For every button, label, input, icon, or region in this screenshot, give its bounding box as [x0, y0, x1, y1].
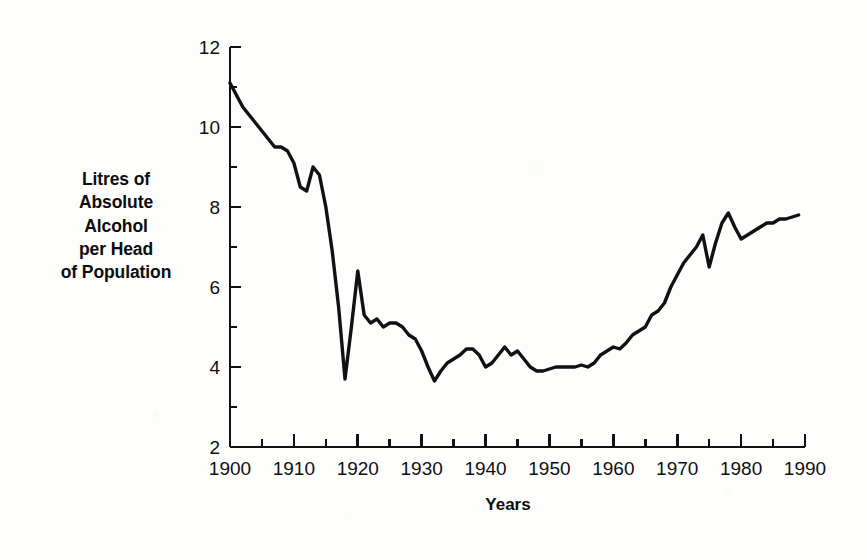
x-tick-label: 1960	[592, 458, 634, 479]
y-tick-label: 10	[199, 117, 220, 138]
y-tick-label: 2	[209, 437, 220, 458]
y-tick-label: 6	[209, 277, 220, 298]
y-axis-title-line-3: Alcohol	[28, 215, 204, 238]
x-tick-label: 1900	[209, 458, 251, 479]
y-axis-title-line-5: of Population	[28, 261, 204, 284]
x-tick-label: 1910	[273, 458, 315, 479]
y-axis-title-line-4: per Head	[28, 238, 204, 261]
x-tick-label: 1950	[528, 458, 570, 479]
x-axis-title: Years	[418, 495, 598, 515]
x-tick-label: 1990	[784, 458, 826, 479]
x-tick-label: 1970	[656, 458, 698, 479]
axes-group	[230, 47, 805, 447]
y-axis-title: Litres of Absolute Alcohol per Head of P…	[28, 168, 204, 284]
x-tick-label: 1920	[337, 458, 379, 479]
y-tick-label: 8	[209, 197, 220, 218]
y-tick-label: 4	[209, 357, 220, 378]
chart-figure: Litres of Absolute Alcohol per Head of P…	[0, 0, 867, 560]
x-tick-label: 1940	[464, 458, 506, 479]
tick-labels-group: 2468101219001910192019301940195019601970…	[199, 37, 826, 479]
y-tick-label: 12	[199, 37, 220, 58]
y-axis-title-line-2: Absolute	[28, 191, 204, 214]
y-axis-title-line-1: Litres of	[28, 168, 204, 191]
data-series-line	[230, 83, 799, 381]
x-tick-label: 1930	[401, 458, 443, 479]
x-tick-label: 1980	[720, 458, 762, 479]
data-series-group	[230, 83, 799, 381]
